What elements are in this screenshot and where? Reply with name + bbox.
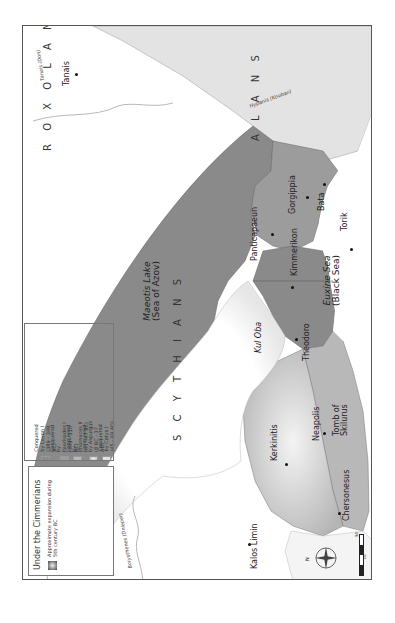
label-kul-oba: Kul Oba xyxy=(255,322,263,353)
legend-note: Approximate expansion during 5th century… xyxy=(46,472,58,570)
river-kouban xyxy=(33,103,173,121)
label-kerkinitis: Kerkinitis xyxy=(271,424,279,461)
label-scythians: S C Y T H I A N S xyxy=(173,274,183,441)
city-dot-gorgippia xyxy=(306,196,309,199)
legend-note-swatch xyxy=(48,561,57,570)
city-dot-kimmerikon xyxy=(291,286,294,289)
map-canvas: Under the Cimmerians Approximate expansi… xyxy=(23,26,372,580)
label-chersonesus: Chersonesus xyxy=(343,470,351,521)
city-dot-panticapaeum xyxy=(271,233,274,236)
city-dot-chersonesus xyxy=(338,512,341,515)
compass-rose-icon xyxy=(313,545,339,571)
label-sea-of-azov: Maeotis Lake (Sea of Azov) xyxy=(143,261,161,321)
label-torik: Torik xyxy=(341,212,349,231)
label-kimmerikon: Kimmerikon xyxy=(291,228,299,276)
compass-north-label: N xyxy=(305,557,310,561)
label-bata: Bata xyxy=(318,193,326,211)
river-dnieper xyxy=(133,496,143,580)
legend-title: Under the Cimmerians xyxy=(33,472,42,570)
label-neapolis: Neapolis xyxy=(313,407,321,441)
label-roxolani: R O X O L A N I xyxy=(43,25,53,151)
legend-items-box xyxy=(24,323,114,461)
legend: Under the Cimmerians Approximate expansi… xyxy=(28,466,114,576)
black-sea-alt: (Black Sea) xyxy=(332,255,341,306)
legend-note-text: Approximate expansion during 5th century… xyxy=(46,472,58,557)
city-dot-torik xyxy=(350,248,353,251)
label-gorgippia: Gorgippia xyxy=(289,175,297,214)
region-cotys xyxy=(93,26,372,161)
city-dot-bata xyxy=(323,183,326,186)
label-black-sea: Euxine Sea (Black Sea) xyxy=(323,255,341,306)
label-theodoro: Theodoro xyxy=(303,323,311,361)
city-dot-theodoro xyxy=(295,338,298,341)
map-frame: Under the Cimmerians Approximate expansi… xyxy=(22,25,372,580)
city-dot-neapolis xyxy=(323,432,326,435)
label-tomb-of-skilurus: Tomb of Skilurus xyxy=(333,396,349,436)
scale-max: 50 xyxy=(355,532,359,537)
scale-unit: km xyxy=(364,554,367,559)
label-kalos-limin: Kalos Limin xyxy=(251,523,259,569)
label-panticapaeum: Panticapaeun xyxy=(251,207,259,261)
city-dot-tanais xyxy=(75,73,78,76)
sea-of-azov-alt: (Sea of Azov) xyxy=(152,261,161,321)
label-tanais: Tanais xyxy=(63,61,71,86)
label-alans: A L A N S xyxy=(251,50,261,141)
city-dot-kerkinitis xyxy=(285,463,288,466)
